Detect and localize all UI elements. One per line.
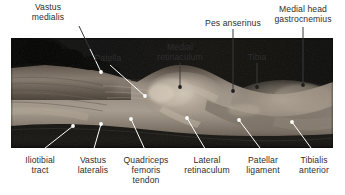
label-vastus-lateralis: Vastus lateralis	[68, 155, 118, 175]
label-patella: Patella	[86, 53, 130, 63]
label-tibia: Tibia	[240, 52, 274, 62]
anatomy-figure: Vastus medialis Patella Medial retinacul…	[0, 0, 345, 195]
label-iliotibial-tract: Iliotibial tract	[15, 155, 65, 175]
label-pes-anserinus: Pes anserinus	[198, 18, 268, 28]
label-medial-head-gastrocnemius: Medial head gastrocnemius	[266, 4, 340, 24]
label-medial-retinaculum: Medial retinaculum	[147, 42, 213, 62]
label-tibialis-anterior: Tibialis anterior	[289, 155, 339, 175]
label-vastus-medialis: Vastus medialis	[20, 2, 76, 22]
label-patellar-ligament: Patellar ligament	[237, 155, 289, 175]
label-lateral-retinaculum: Lateral retinaculum	[176, 155, 238, 175]
label-quadriceps-femoris-tendon: Quadriceps femoris tendon	[117, 155, 175, 186]
